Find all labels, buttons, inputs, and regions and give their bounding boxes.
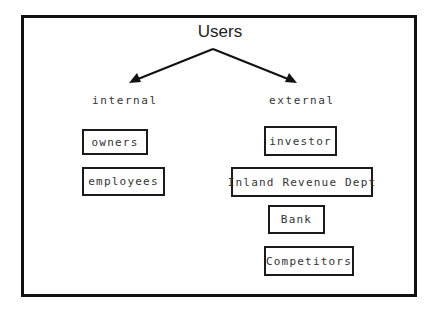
- node-employees: employees: [82, 167, 165, 196]
- node-inland-revenue-dept: Inland Revenue Dept: [231, 167, 373, 197]
- node-owners: owners: [82, 129, 148, 155]
- arrow-to-internal-icon: [129, 49, 213, 83]
- node-investor: investor: [264, 126, 337, 156]
- node-competitors: Competitors: [264, 246, 354, 276]
- node-bank: Bank: [268, 205, 325, 234]
- category-external: external: [269, 94, 335, 107]
- branch-arrows: [0, 0, 439, 313]
- category-internal: internal: [92, 94, 158, 107]
- arrow-to-external-icon: [213, 49, 297, 83]
